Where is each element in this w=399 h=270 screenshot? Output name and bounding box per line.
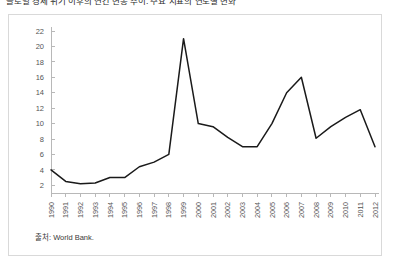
- x-tick-label: 1990: [47, 202, 56, 218]
- x-tick-label: 2007: [297, 202, 306, 218]
- x-tick-label: 1995: [120, 202, 129, 218]
- x-tick-label: 2000: [194, 202, 203, 218]
- y-tick-label: 2: [40, 181, 44, 190]
- x-tick-label: 2006: [282, 202, 291, 218]
- x-tick-label: 1999: [179, 202, 188, 218]
- y-tick-label: 14: [36, 88, 44, 97]
- x-tick-label: 1991: [61, 202, 70, 218]
- y-tick-label: 8: [40, 135, 44, 144]
- figure-page: 글로벌 경제 위기 이후의 연간 변동 추이: 주요 지표의 연도별 변화 24…: [0, 0, 399, 270]
- y-tick-label: 20: [36, 42, 44, 51]
- x-tick-label: 2011: [356, 202, 365, 217]
- x-axis: 1990199119921993199419951996199719981999…: [47, 193, 380, 218]
- y-tick-label: 22: [36, 27, 44, 36]
- y-tick-label: 12: [36, 104, 44, 113]
- series-line: [51, 39, 375, 184]
- x-tick-label: 1992: [76, 202, 85, 218]
- x-tick-label: 2001: [209, 202, 218, 218]
- y-tick-label: 4: [40, 166, 44, 175]
- x-tick-label: 2004: [253, 202, 262, 218]
- source-note: 출처: World Bank.: [35, 233, 94, 243]
- x-tick-label: 2002: [223, 202, 232, 218]
- y-tick-label: 16: [36, 73, 44, 82]
- chart-plot-area: 246810121416182022 199019911992199319941…: [9, 15, 383, 225]
- figure-container: 246810121416182022 199019911992199319941…: [8, 14, 382, 256]
- x-tick-label: 1994: [106, 202, 115, 218]
- y-tick-label: 6: [40, 150, 44, 159]
- x-tick-label: 2010: [341, 202, 350, 218]
- x-tick-label: 2005: [268, 202, 277, 218]
- y-tick-label: 10: [36, 119, 44, 128]
- x-tick-label: 1998: [164, 202, 173, 218]
- line-chart: 246810121416182022 199019911992199319941…: [9, 15, 383, 225]
- document-heading: 글로벌 경제 위기 이후의 연간 변동 추이: 주요 지표의 연도별 변화: [6, 0, 396, 6]
- x-tick-label: 1997: [150, 202, 159, 218]
- y-tick-label: 18: [36, 58, 44, 67]
- x-tick-label: 2008: [312, 202, 321, 218]
- x-tick-label: 2012: [371, 202, 380, 218]
- x-tick-label: 2009: [326, 202, 335, 218]
- x-tick-label: 2003: [238, 202, 247, 218]
- data-series: [51, 39, 375, 184]
- y-axis: 246810121416182022: [36, 27, 55, 193]
- x-tick-label: 1993: [91, 202, 100, 218]
- x-tick-label: 1996: [135, 202, 144, 218]
